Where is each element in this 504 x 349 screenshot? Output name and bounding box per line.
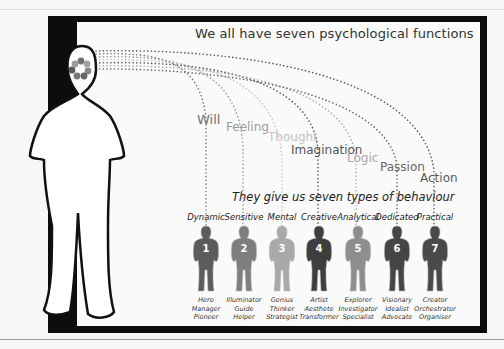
function-label-action: Action (420, 171, 458, 185)
behaviour-subtitle: They give us seven types of behaviour (232, 190, 455, 204)
function-label-feeling: Feeling (226, 120, 269, 134)
figure-number: 2 (241, 243, 248, 254)
person-figure-2-icon: 2 (230, 225, 258, 293)
behaviour-type-practical: Practical (405, 212, 465, 222)
function-label-thought: Thought (268, 130, 318, 144)
role: Orchestrator (405, 305, 465, 314)
person-figure-1-icon: 1 (192, 225, 220, 293)
figure-number: 7 (432, 243, 439, 254)
role: Organiser (405, 313, 465, 322)
function-label-logic: Logic (347, 151, 378, 165)
figure-number: 6 (394, 243, 401, 254)
person-figure-3-icon: 3 (268, 225, 296, 293)
person-figure-6-icon: 6 (383, 225, 411, 293)
figure-number: 3 (279, 243, 286, 254)
figure-number: 5 (355, 243, 362, 254)
function-label-passion: Passion (380, 160, 425, 174)
roles-7: Creator Orchestrator Organiser (405, 296, 465, 322)
person-figure-5-icon: 5 (344, 225, 372, 293)
figure-number: 4 (316, 243, 323, 254)
role: Creator (405, 296, 465, 305)
person-silhouette (30, 46, 124, 318)
person-figure-4-icon: 4 (305, 225, 333, 293)
function-label-will: Will (197, 112, 220, 127)
person-figure-7-icon: 7 (421, 225, 449, 293)
figure-number: 1 (203, 243, 210, 254)
